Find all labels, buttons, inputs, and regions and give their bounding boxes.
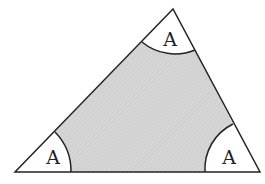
bottom-right-angle-label: A <box>221 146 236 168</box>
shaded-region <box>55 42 233 172</box>
top-angle-label: A <box>162 28 177 50</box>
bottom-left-angle-label: A <box>45 146 60 168</box>
triangle-diagram: A A A <box>0 0 265 184</box>
